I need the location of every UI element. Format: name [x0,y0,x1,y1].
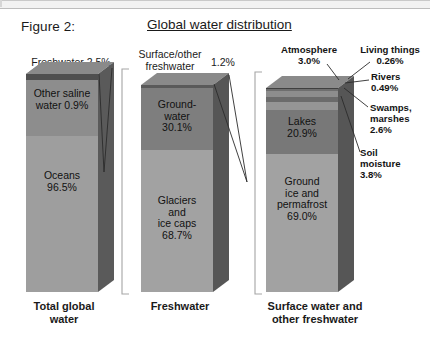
bracket-surface-water [255,72,262,294]
bar-total-global-water: Other saline water 0.9% Oceans 96.5% [26,74,98,292]
chart-title: Global water distribution [147,17,292,32]
figure-number-label: Figure 2: [21,19,75,34]
bar-surface-water-other-freshwater: Lakes 20.9% Ground ice and permafrost 69… [266,88,338,292]
bar1-segment-other-saline-water [26,80,98,136]
bar2-caption: Freshwater [130,300,230,313]
callout-rivers: Rivers 0.49% [371,72,429,94]
bar-freshwater: Ground- water 30.1% Glaciers and ice cap… [141,85,213,292]
document-frame-edge [0,0,430,9]
bar1-segment-oceans [26,136,98,292]
bar3-segment-lakes [266,110,338,154]
callout-living-things: Living things 0.26% [352,45,428,67]
bar2-segment-groundwater [141,88,213,150]
bar1-caption: Total global water [14,300,114,326]
bar3-segment-soil-moisture [266,102,338,110]
callout-atmosphere: Atmosphere 3.0% [272,45,346,67]
bar2-top-label-value: 1.2% [211,56,247,68]
bracket-freshwater [122,69,129,294]
callout-soil-moisture: Soil moisture 3.8% [360,148,422,180]
document-frame-corner [0,0,2,7]
bar3-side-face [338,76,354,292]
bar2-side-face [213,73,229,292]
bar1-side-face [98,62,114,292]
figure-canvas: Figure 2: Global water distribution Fres… [0,0,430,349]
bar2-top-label: Surface/other freshwater [128,48,212,72]
bar3-segment-ground-ice-permafrost [266,154,338,292]
callout-swamps-marshes: Swamps, marshes 2.6% [370,103,430,135]
bar2-segment-glaciers-ice-caps [141,150,213,292]
bar3-caption: Surface water and other freshwater [250,300,380,326]
